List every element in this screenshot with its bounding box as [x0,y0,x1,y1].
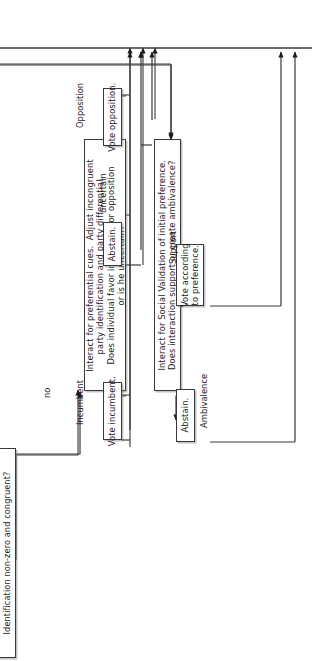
edge-label-incumbent: Incumbent [75,380,85,425]
edge-label-uncertain: uncertain [98,173,108,213]
node-identification-check[interactable]: Identification non-zero and congruent? [0,448,16,658]
node-abstain-upper-label: Abstain. [107,227,117,262]
edge-label-opposition: Opposition [75,83,85,128]
node-vote-opposition-label: Vote opposition. [107,82,117,151]
node-vote-according-to-preference[interactable]: Vote according to preference. [176,244,204,306]
node-interact-social-validation-label: Interact for Social Validation of initia… [157,160,178,371]
node-identification-check-label: Identification non-zero and congruent? [2,472,12,635]
edge-label-support: Support [168,231,178,264]
node-abstain-lower[interactable]: Abstain. [176,389,195,442]
node-vote-incumbent-label: Vote incumbent. [107,376,117,446]
node-vote-incumbent[interactable]: Vote incumbent. [103,382,122,440]
node-vote-according-to-preference-label: Vote according to preference. [180,243,201,307]
flowchart-canvas: Identification non-zero and congruent? I… [0,0,324,661]
edge-label-no: no [42,388,52,398]
node-abstain-lower-label: Abstain. [180,398,190,433]
edge-label-ambivalence: Ambivalence [199,374,209,428]
node-abstain-upper[interactable]: Abstain. [103,222,122,266]
node-vote-opposition[interactable]: Vote opposition. [103,88,122,146]
